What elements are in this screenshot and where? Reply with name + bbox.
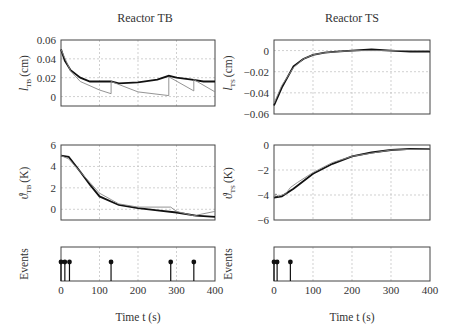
x-tick-label: 200 [130, 284, 147, 296]
y-label-l-ts: lTS(cm) [222, 55, 237, 90]
y-tick-label: 4 [51, 160, 57, 172]
plot-events-ts: 0100200300400 [271, 247, 439, 296]
y-tick-label: 0 [264, 45, 270, 57]
x-tick-label: 0 [58, 284, 64, 296]
title-reactor-ts: Reactor TS [325, 11, 379, 25]
y-tick-label: −0.06 [244, 108, 270, 120]
y-label-events-ts: Events [222, 248, 234, 280]
svg-text:ϑTS(K): ϑTS(K) [222, 167, 237, 199]
y-tick-label: −2 [257, 164, 269, 176]
y-tick-label: −4 [257, 189, 269, 201]
y-label-events-tb: Events [18, 248, 30, 280]
y-tick-label: 0 [51, 203, 57, 215]
x-axis-label-right: Time t (s) [330, 311, 375, 324]
y-tick-label: 0 [264, 139, 270, 151]
svg-text:Events: Events [18, 248, 30, 280]
y-tick-label: −6 [257, 214, 269, 226]
y-label-l-tb: lTB(cm) [18, 55, 33, 91]
x-tick-label: 100 [91, 284, 108, 296]
title-reactor-tb: Reactor TB [117, 11, 172, 25]
y-label-theta-ts: ϑTS(K) [222, 167, 237, 199]
figure: Reactor TB Reactor TS 0.060.040.02064200… [0, 0, 456, 328]
svg-text:Events: Events [222, 248, 234, 280]
x-tick-label: 0 [271, 284, 277, 296]
y-tick-label: 0.04 [37, 53, 57, 65]
y-tick-label: 0.02 [37, 72, 56, 84]
y-label-theta-tb: ϑTB(K) [18, 167, 33, 200]
y-tick-label: 0 [51, 91, 57, 103]
plot-l-ts: 0−0.02−0.04−0.06 [244, 40, 430, 120]
svg-text:ϑTB(K): ϑTB(K) [18, 167, 33, 200]
x-tick-label: 300 [168, 284, 185, 296]
y-tick-label: 6 [51, 139, 57, 151]
x-tick-label: 200 [344, 284, 361, 296]
plot-theta-tb: 6420 [51, 139, 216, 220]
y-tick-label: −0.02 [244, 66, 269, 78]
x-tick-label: 400 [422, 284, 439, 296]
y-tick-label: −0.04 [244, 87, 270, 99]
y-tick-label: 2 [51, 182, 57, 194]
plot-l-tb: 0.060.040.020 [37, 34, 215, 106]
series-measured [61, 49, 215, 83]
x-tick-label: 400 [207, 284, 224, 296]
svg-text:lTS(cm): lTS(cm) [222, 55, 237, 90]
svg-text:lTB(cm): lTB(cm) [18, 55, 33, 91]
x-axis-label-left: Time t (s) [116, 311, 161, 324]
x-tick-label: 300 [383, 284, 400, 296]
plot-theta-ts: 0−2−4−6 [257, 139, 430, 226]
plot-events-tb: 0100200300400 [58, 247, 224, 296]
x-tick-label: 100 [305, 284, 322, 296]
y-tick-label: 0.06 [37, 34, 57, 46]
